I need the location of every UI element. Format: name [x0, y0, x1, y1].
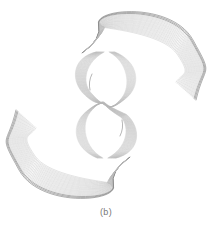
- central-twisted-band: [75, 52, 136, 158]
- figure-caption: (b): [0, 207, 212, 217]
- top-right-lobe: [82, 12, 206, 100]
- ribbon-figure: [0, 0, 212, 205]
- bottom-left-lobe: [6, 110, 130, 198]
